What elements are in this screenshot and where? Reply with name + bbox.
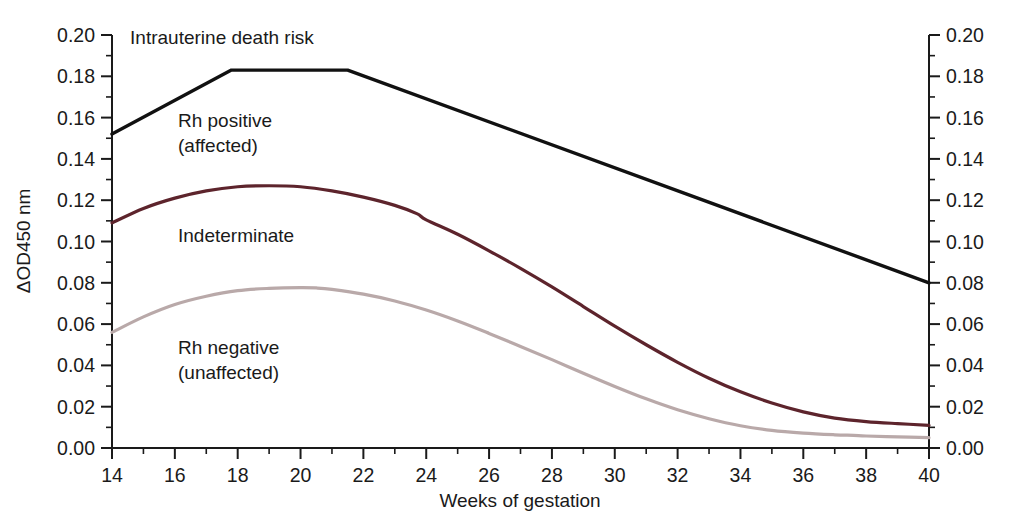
- y-tick-label: 0.04: [946, 354, 984, 376]
- y-tick-label: 0.12: [946, 189, 984, 211]
- x-tick-label: 20: [290, 464, 312, 486]
- liley-chart: 0.000.020.040.060.080.100.120.140.160.18…: [0, 0, 1020, 526]
- y-tick-label: 0.16: [57, 107, 95, 129]
- y-tick-label: 0.08: [57, 272, 95, 294]
- chart-svg: 0.000.020.040.060.080.100.120.140.160.18…: [0, 0, 1020, 526]
- x-tick-label: 24: [415, 464, 437, 486]
- y-tick-label: 0.10: [946, 231, 984, 253]
- x-tick-label: 22: [353, 464, 375, 486]
- y-tick-label: 0.12: [57, 189, 95, 211]
- y-tick-label: 0.02: [946, 396, 984, 418]
- x-tick-label: 32: [667, 464, 689, 486]
- x-tick-label: 40: [918, 464, 940, 486]
- y-tick-label: 0.14: [946, 148, 984, 170]
- y-tick-label: 0.14: [57, 148, 95, 170]
- y-tick-label: 0.18: [946, 65, 984, 87]
- y-tick-label: 0.06: [57, 313, 95, 335]
- y-tick-label: 0.20: [57, 24, 95, 46]
- plot-annotation-2: (affected): [178, 135, 258, 156]
- x-tick-label: 38: [855, 464, 877, 486]
- y-tick-label: 0.02: [57, 396, 95, 418]
- plot-annotation-4: Rh negative: [178, 337, 279, 358]
- y-tick-label: 0.00: [57, 437, 95, 459]
- x-tick-label: 36: [792, 464, 814, 486]
- x-tick-label: 16: [164, 464, 186, 486]
- x-tick-label: 14: [101, 464, 123, 486]
- x-tick-label: 26: [478, 464, 500, 486]
- y-tick-label: 0.04: [57, 354, 95, 376]
- plot-annotation-5: (unaffected): [178, 362, 279, 383]
- y-tick-label: 0.06: [946, 313, 984, 335]
- x-tick-label: 34: [730, 464, 752, 486]
- plot-annotation-0: Intrauterine death risk: [130, 27, 314, 48]
- y-tick-label: 0.20: [946, 24, 984, 46]
- y-tick-label: 0.16: [946, 107, 984, 129]
- y-tick-label: 0.08: [946, 272, 984, 294]
- y-tick-label: 0.18: [57, 65, 95, 87]
- y-tick-label: 0.00: [946, 437, 984, 459]
- x-tick-label: 18: [227, 464, 249, 486]
- plot-annotation-3: Indeterminate: [178, 225, 294, 246]
- y-tick-label: 0.10: [57, 231, 95, 253]
- plot-annotation-1: Rh positive: [178, 110, 272, 131]
- y-axis-title: ΔOD450 nm: [13, 189, 34, 294]
- x-axis-title: Weeks of gestation: [439, 490, 600, 511]
- x-tick-label: 28: [541, 464, 563, 486]
- x-tick-label: 30: [604, 464, 626, 486]
